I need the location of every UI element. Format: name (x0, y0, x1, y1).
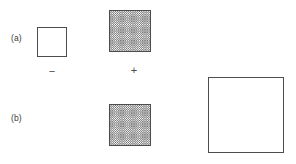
small-empty-square-panel-a (37, 27, 67, 57)
figure-canvas: (a) − + (b) (0, 0, 296, 164)
condition-plus-sign: + (126, 65, 142, 76)
panel-label-a: (a) (11, 34, 22, 43)
large-empty-square-panel-b (208, 77, 284, 153)
medium-hatched-square-panel-a (109, 10, 151, 52)
medium-hatched-square-panel-b (109, 104, 151, 146)
condition-minus-sign: − (44, 66, 60, 77)
panel-label-b: (b) (11, 114, 22, 123)
